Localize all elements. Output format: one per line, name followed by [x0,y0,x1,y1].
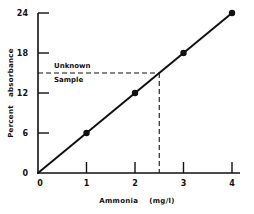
x-tick-label: 2 [132,179,138,188]
y-axis-title: Percent absorbance [7,48,15,138]
calibration-chart: 06121824 01234 Unknown Sample Ammonia (m… [0,0,254,214]
data-series [38,10,235,173]
data-point [132,90,138,96]
data-point [180,50,186,56]
y-tick-label: 0 [22,169,28,178]
x-tick-label: 1 [84,179,90,188]
y-tick-label: 12 [17,89,28,98]
data-point [83,130,89,136]
x-tick-label: 3 [181,179,187,188]
y-tick-label: 24 [17,9,29,18]
data-point [229,10,235,16]
x-tick-label: 4 [229,179,235,188]
y-ticks: 06121824 [17,9,49,178]
y-tick-label: 6 [22,129,28,138]
x-ticks: 01234 [37,162,235,188]
y-tick-label: 18 [17,49,29,58]
annotation-line2: Sample [54,76,83,84]
x-axis-title: Ammonia (mg/l) [99,197,174,205]
x-tick-label: 0 [37,179,43,188]
annotation-line1: Unknown [54,62,91,70]
